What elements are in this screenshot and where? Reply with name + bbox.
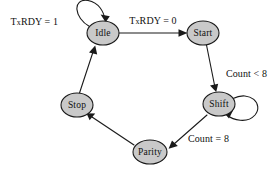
- edge-start-to-shift-arrowhead: [210, 84, 218, 92]
- edge-idle-to-start-arrowhead: [179, 29, 188, 37]
- state-node-parity[interactable]: Parity: [133, 140, 167, 164]
- state-node-shift-label: Shift: [209, 99, 229, 109]
- state-node-idle[interactable]: Idle: [87, 21, 119, 45]
- state-node-start-label: Start: [194, 28, 213, 38]
- state-node-stop-label: Stop: [68, 100, 86, 110]
- state-node-shift[interactable]: Shift: [203, 92, 235, 116]
- state-node-parity-label: Parity: [138, 147, 162, 157]
- state-node-idle-label: Idle: [95, 28, 111, 38]
- state-machine-diagram: Idle Start Shift Parity Stop TxRDY = 1 T…: [0, 0, 278, 172]
- state-node-stop[interactable]: Stop: [61, 93, 93, 117]
- edge-stop-to-idle-arrowhead: [89, 45, 97, 54]
- state-node-start[interactable]: Start: [187, 21, 219, 45]
- edge-label-count-lt-8: Count < 8: [226, 68, 267, 79]
- edge-parity-to-stop-path: [92, 117, 134, 145]
- edge-start-to-shift: [207, 45, 219, 92]
- edge-stop-to-idle: [80, 45, 98, 93]
- edge-label-count-eq-8: Count = 8: [188, 133, 229, 144]
- edge-start-to-shift-path: [207, 45, 215, 85]
- edge-idle-to-start: [120, 29, 188, 37]
- edge-stop-to-idle-path: [80, 52, 94, 93]
- edge-label-txrdy-1: TxRDY = 1: [11, 16, 58, 27]
- edge-parity-to-stop: [87, 113, 135, 145]
- fsm-canvas: Idle Start Shift Parity Stop TxRDY = 1 T…: [0, 0, 278, 172]
- edge-label-txrdy-0: TxRDY = 0: [129, 15, 176, 26]
